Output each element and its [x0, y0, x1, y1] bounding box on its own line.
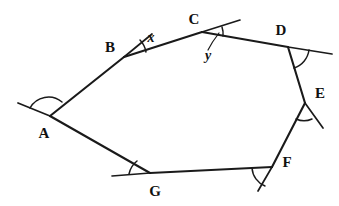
vertex-label-A: A — [39, 125, 50, 141]
side-D-E — [288, 47, 305, 103]
angle-label-y: y — [203, 48, 212, 63]
vertex-label-C: C — [189, 11, 200, 27]
vertex-label-G: G — [149, 183, 161, 199]
exterior-ray-E — [305, 103, 323, 128]
side-A-B — [50, 57, 124, 116]
heptagon-diagram-svg: A B C D E F G x y — [0, 0, 339, 206]
angle-arcs — [30, 27, 312, 186]
side-F-G — [150, 167, 272, 173]
exterior-ray-C — [202, 20, 240, 32]
polygon-sides — [50, 32, 305, 173]
geometry-figure: A B C D E F G x y — [0, 0, 339, 206]
exterior-ray-A — [18, 103, 50, 116]
vertex-label-E: E — [315, 85, 325, 101]
vertex-label-D: D — [276, 22, 287, 38]
angle-arc-A — [30, 97, 62, 108]
exterior-ray-D — [288, 47, 332, 54]
vertex-label-F: F — [282, 154, 291, 170]
side-G-A — [50, 116, 150, 173]
angle-arc-D — [294, 50, 309, 68]
exterior-ray-G — [112, 173, 150, 176]
exterior-ray-F — [258, 167, 272, 191]
vertex-label-B: B — [105, 39, 115, 55]
angle-label-x: x — [147, 30, 155, 45]
angle-arc-E — [296, 119, 312, 121]
side-B-C — [124, 32, 202, 57]
